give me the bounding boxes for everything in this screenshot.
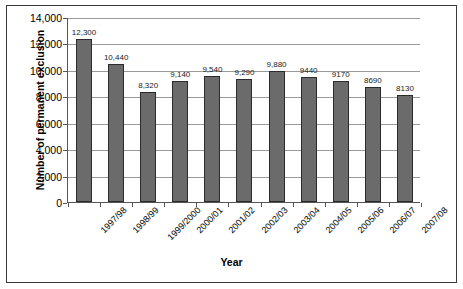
plot-area: 12,30010,4408,3209,1409,5409,2909,880944… bbox=[67, 18, 420, 203]
y-axis-tick-label: 10,000 bbox=[6, 66, 62, 77]
bar-slot: 8690 bbox=[357, 18, 389, 202]
bar-slot: 9,540 bbox=[196, 18, 228, 202]
bar-value-label: 9440 bbox=[300, 67, 318, 75]
bar bbox=[76, 39, 92, 202]
bar-value-label: 9,140 bbox=[170, 71, 190, 79]
bar bbox=[140, 92, 156, 202]
bar-value-label: 9170 bbox=[332, 71, 350, 79]
y-axis-tick-mark bbox=[63, 203, 67, 204]
y-axis-tick-label: 2,000 bbox=[6, 172, 62, 183]
bar bbox=[365, 87, 381, 202]
bar bbox=[333, 81, 349, 202]
bar-slot: 9,140 bbox=[164, 18, 196, 202]
y-axis-tick-label: 14,000 bbox=[6, 13, 62, 24]
y-axis-tick-label: 0 bbox=[6, 198, 62, 209]
y-axis-tick-label: 12,000 bbox=[6, 39, 62, 50]
bar-slot: 9440 bbox=[293, 18, 325, 202]
bar-value-label: 9,540 bbox=[202, 66, 222, 74]
y-axis-tick-label: 4,000 bbox=[6, 145, 62, 156]
bar-value-label: 8,320 bbox=[138, 82, 158, 90]
bar bbox=[236, 79, 252, 202]
y-axis-tick-label: 8,000 bbox=[6, 92, 62, 103]
bar-series: 12,30010,4408,3209,1409,5409,2909,880944… bbox=[68, 18, 420, 202]
x-axis-tick-labels: 1997/981998/991999/20002000/012001/02200… bbox=[67, 205, 420, 253]
bar-value-label: 10,440 bbox=[104, 54, 128, 62]
bar-value-label: 9,290 bbox=[234, 69, 254, 77]
x-axis-tick-label: 2003/04 bbox=[291, 205, 321, 235]
bar-slot: 9,880 bbox=[261, 18, 293, 202]
bar bbox=[172, 81, 188, 202]
bar-value-label: 8130 bbox=[396, 85, 414, 93]
bar-value-label: 8690 bbox=[364, 77, 382, 85]
bar-slot: 9170 bbox=[325, 18, 357, 202]
bar-slot: 8,320 bbox=[132, 18, 164, 202]
x-axis-tick-label: 2005/06 bbox=[355, 205, 385, 235]
chart-figure: Number of permanent exclusion 02,0004,00… bbox=[0, 0, 463, 289]
x-axis-tick-label: 2001/02 bbox=[227, 205, 257, 235]
x-axis-tick-mark bbox=[421, 203, 422, 207]
x-axis-tick-label: 1998/99 bbox=[131, 205, 161, 235]
x-axis-tick-label: 2004/05 bbox=[323, 205, 353, 235]
bar-slot: 12,300 bbox=[68, 18, 100, 202]
bar-value-label: 9,880 bbox=[267, 61, 287, 69]
x-axis-title: Year bbox=[0, 256, 463, 268]
y-axis-tick-label: 6,000 bbox=[6, 119, 62, 130]
bar-slot: 8130 bbox=[389, 18, 421, 202]
bar-value-label: 12,300 bbox=[72, 29, 96, 37]
bar bbox=[204, 76, 220, 202]
x-axis-tick-label: 2002/03 bbox=[259, 205, 289, 235]
x-axis-tick-label: 1997/98 bbox=[99, 205, 129, 235]
bar-slot: 9,290 bbox=[228, 18, 260, 202]
bar-slot: 10,440 bbox=[100, 18, 132, 202]
bar bbox=[269, 71, 285, 202]
bar bbox=[301, 77, 317, 202]
x-axis-tick-label: 2006/07 bbox=[387, 205, 417, 235]
bar bbox=[108, 64, 124, 202]
bar bbox=[397, 95, 413, 202]
